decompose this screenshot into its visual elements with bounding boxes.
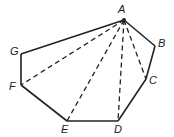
vertex-label-b: B (158, 38, 165, 49)
vertex-label-f: F (9, 81, 16, 92)
vertex-a-dot (122, 18, 126, 22)
diagram-canvas (0, 0, 174, 137)
heptagon-diagram: ABCDEFG (0, 0, 174, 137)
edge-ga (21, 20, 124, 54)
vertex-label-c: C (149, 75, 157, 86)
vertex-label-d: D (114, 124, 122, 135)
edge-ef (21, 85, 67, 121)
diagonal-ad (118, 20, 124, 121)
vertex-label-g: G (10, 46, 19, 57)
vertex-label-a: A (118, 4, 125, 15)
edge-ab (124, 20, 155, 46)
vertex-label-e: E (61, 124, 68, 135)
diagonal-af (21, 20, 124, 85)
diagonal-ae (67, 20, 124, 121)
edge-cd (118, 79, 146, 121)
